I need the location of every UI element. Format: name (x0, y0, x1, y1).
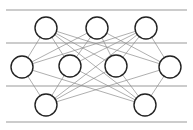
graph-node-m1 (11, 56, 33, 78)
graph-node-t2 (86, 17, 108, 39)
graph-node-m3 (105, 55, 127, 77)
graph-node-t1 (35, 17, 57, 39)
network-graph-svg (0, 0, 193, 130)
graph-node-m4 (159, 56, 181, 78)
graph-node-b2 (134, 94, 156, 116)
graph-node-t3 (135, 17, 157, 39)
graph-node-m2 (59, 55, 81, 77)
graph-node-b1 (35, 94, 57, 116)
diagram-canvas (0, 0, 193, 130)
